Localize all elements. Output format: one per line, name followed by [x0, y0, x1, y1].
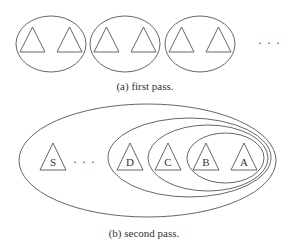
subtree-triangle-icon	[57, 27, 82, 52]
continuation-ellipsis: · · ·	[258, 36, 281, 50]
ellipse-s	[19, 104, 276, 217]
node-label: B	[202, 156, 209, 168]
subtree-triangle-icon	[20, 27, 45, 52]
node-a: A	[231, 143, 257, 170]
continuation-ellipsis: · · ·	[73, 155, 96, 169]
node-label: C	[164, 156, 171, 168]
group-ellipse	[16, 16, 86, 72]
subtree-triangle-icon	[169, 27, 194, 52]
caption-first-pass: (a) first pass.	[116, 80, 173, 93]
figure-b-second-pass: S · · · D C B A (b) second pass.	[19, 104, 276, 240]
node-label: D	[126, 156, 134, 168]
node-d: D	[117, 143, 143, 170]
group-ellipse	[165, 16, 235, 72]
node-label: S	[50, 156, 56, 168]
group-ellipse	[90, 16, 160, 72]
group-ellipse-2	[90, 16, 160, 72]
subtree-triangle-icon	[131, 27, 156, 52]
group-ellipse-3	[165, 16, 235, 72]
node-b: B	[193, 143, 219, 170]
figure-canvas: · · · (a) first pass. S · · · D C B A (b…	[0, 0, 290, 247]
group-ellipse-1	[16, 16, 86, 72]
subtree-triangle-icon	[206, 27, 231, 52]
figure-a-first-pass: · · · (a) first pass.	[16, 16, 281, 93]
node-c: C	[155, 143, 181, 170]
node-label: A	[240, 156, 248, 168]
node-s: S	[40, 143, 66, 170]
subtree-triangle-icon	[94, 27, 119, 52]
caption-second-pass: (b) second pass.	[109, 227, 180, 240]
